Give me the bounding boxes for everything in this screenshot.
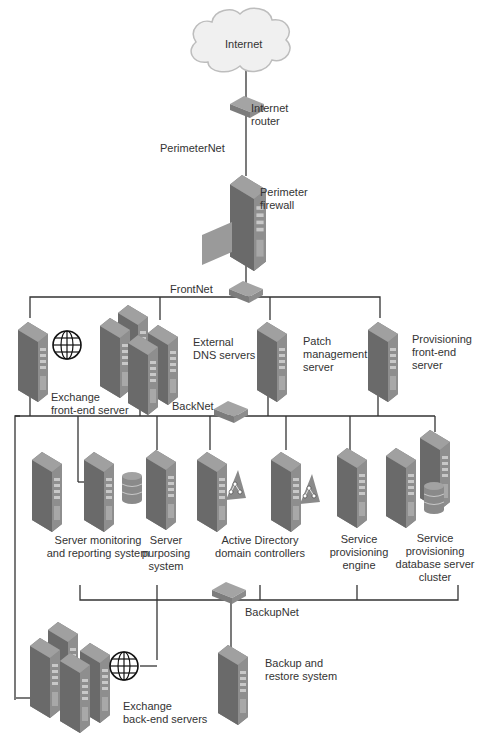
patch-management-server-icon (257, 322, 287, 402)
service-provisioning-engine-label: Service provisioning engine (328, 533, 390, 572)
exchange-backend-label: Exchange back-end servers (123, 700, 207, 726)
label-line: Internet (251, 102, 288, 115)
label-line: Service (328, 533, 390, 546)
label-line: database server (390, 558, 480, 571)
backup-restore-label: Backup and restore system (265, 657, 337, 683)
label-line: back-end servers (123, 713, 207, 726)
label-line: server (303, 361, 367, 374)
frontnet-label: FrontNet (170, 283, 213, 296)
globe-icon (110, 652, 138, 680)
label-line: Service (390, 532, 480, 545)
provisioning-frontend-server-icon (368, 322, 398, 402)
backnet-label: BackNet (172, 400, 214, 413)
label-line: management (303, 348, 367, 361)
patch-management-label: Patch management server (303, 335, 367, 374)
label-line: Active Directory (205, 534, 315, 547)
label-line: front-end server (51, 404, 129, 417)
server-reporting-icon (84, 452, 114, 532)
server-purposing-label: Server purposing system (140, 534, 192, 573)
label-line: purposing (140, 547, 192, 560)
label-line: External (193, 336, 255, 349)
perimeter-firewall-icon (202, 175, 266, 271)
provisioning-frontend-label: Provisioning front-end server (412, 333, 472, 372)
label-line: router (251, 115, 288, 128)
label-line: domain controllers (205, 547, 315, 560)
globe-icon (53, 331, 81, 359)
active-directory-icon (226, 470, 246, 500)
label-line: provisioning (328, 546, 390, 559)
exchange-backend-servers-icon (30, 622, 110, 733)
label-line: Server (140, 534, 192, 547)
internet-label: Internet (225, 38, 262, 51)
label-line: DNS servers (193, 349, 255, 362)
service-provisioning-db-label: Service provisioning database server clu… (390, 532, 480, 584)
exchange-frontend-server-icon (18, 322, 48, 402)
server-monitoring-icon (32, 452, 62, 532)
label-line: Backup and (265, 657, 337, 670)
perimeternet-label: PerimeterNet (160, 142, 225, 155)
label-line: Perimeter (260, 186, 308, 199)
label-line: cluster (390, 571, 480, 584)
label-line: provisioning (390, 545, 480, 558)
backnet-switch-icon (214, 401, 248, 423)
backupnet-switch-icon (212, 582, 246, 604)
internet-router-label: Internet router (251, 102, 288, 128)
external-dns-label: External DNS servers (193, 336, 255, 362)
database-icon (122, 472, 142, 504)
label-line: Provisioning (412, 333, 472, 346)
service-provisioning-engine-icon (337, 448, 367, 528)
label-line: server (412, 359, 472, 372)
label-line: Patch (303, 335, 367, 348)
active-directory-icon (300, 474, 320, 504)
label-line: Exchange (51, 391, 129, 404)
backupnet-label: BackupNet (245, 606, 299, 619)
backup-restore-system-icon (218, 645, 248, 725)
label-line: front-end (412, 346, 472, 359)
active-directory-label: Active Directory domain controllers (205, 534, 315, 560)
frontnet-switch-icon (229, 281, 263, 303)
network-diagram (0, 0, 481, 733)
label-line: firewall (260, 199, 308, 212)
exchange-frontend-label: Exchange front-end server (51, 391, 129, 417)
label-line: restore system (265, 670, 337, 683)
label-line: Exchange (123, 700, 207, 713)
perimeter-firewall-label: Perimeter firewall (260, 186, 308, 212)
ad-domain-controller-1-icon (197, 452, 227, 532)
server-purposing-icon (146, 450, 176, 530)
label-line: system (140, 560, 192, 573)
ad-domain-controller-2-icon (271, 452, 301, 532)
service-provisioning-db-cluster-icon (386, 430, 450, 528)
label-line: engine (328, 559, 390, 572)
